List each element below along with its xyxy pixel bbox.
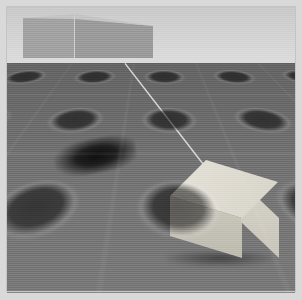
scene-frame [0, 0, 302, 300]
box-contact-shadow [166, 252, 286, 268]
distant-building [23, 14, 153, 58]
building-corner-edge [74, 14, 75, 58]
foreground-box [170, 160, 290, 270]
render-viewport [7, 7, 295, 293]
building-left-face [23, 18, 75, 58]
